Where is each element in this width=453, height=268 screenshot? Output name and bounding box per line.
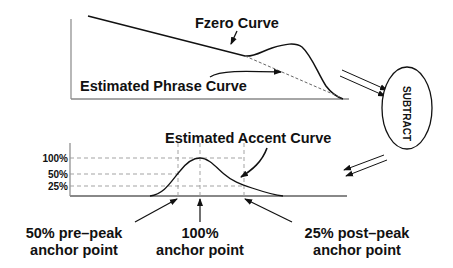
double-arrow-out-a bbox=[344, 155, 384, 170]
pre-peak-label-line2: anchor point bbox=[30, 242, 118, 258]
subtract-label: SUBTRACT bbox=[401, 86, 412, 141]
post-peak-label-line2: anchor point bbox=[313, 242, 401, 258]
tick-100: 100% bbox=[42, 153, 68, 164]
accent-label-arrow bbox=[241, 148, 267, 177]
accent-curve bbox=[150, 158, 283, 196]
peak-label-line2: anchor point bbox=[156, 242, 244, 258]
fzero-label-arrow bbox=[231, 31, 237, 44]
f0-decomposition-diagram: Fzero Curve Estimated Phrase Curve SUBTR… bbox=[0, 0, 453, 268]
top-chart: Fzero Curve Estimated Phrase Curve bbox=[71, 15, 349, 99]
subtract-block: SUBTRACT bbox=[340, 67, 432, 176]
bottom-chart: Estimated Accent Curve 100% 50% 25% 50% … bbox=[26, 130, 411, 258]
tick-50: 50% bbox=[48, 169, 68, 180]
phrase-curve-label: Estimated Phrase Curve bbox=[80, 78, 247, 94]
tick-25: 25% bbox=[48, 181, 68, 192]
accent-curve-label: Estimated Accent Curve bbox=[165, 130, 331, 146]
pre-peak-label-line1: 50% pre–peak bbox=[26, 225, 124, 241]
pre-peak-arrow bbox=[135, 199, 177, 222]
phrase-label-arrow bbox=[210, 71, 281, 77]
double-arrow-out-b bbox=[346, 160, 387, 176]
post-peak-label-line1: 25% post–peak bbox=[305, 225, 411, 241]
post-peak-arrow bbox=[245, 199, 292, 222]
fzero-curve-label: Fzero Curve bbox=[195, 15, 279, 31]
phrase-curve-dashed bbox=[245, 56, 342, 98]
peak-label-line1: 100% bbox=[181, 225, 218, 241]
